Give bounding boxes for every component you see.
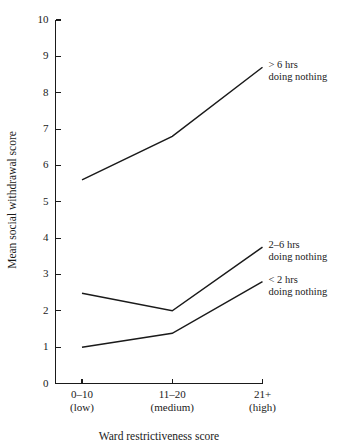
x-axis-title: Ward restrictiveness score (99, 430, 219, 442)
y-tick-label: 6 (43, 158, 49, 170)
y-tick-label: 0 (43, 377, 49, 389)
y-tick-label: 9 (43, 49, 49, 61)
series-line-1 (82, 247, 263, 311)
x-tick-sublabel: (high) (249, 401, 276, 414)
x-tick-label: 0–10 (71, 388, 94, 400)
annotation-1-line2: doing nothing (269, 251, 328, 262)
series-lines (82, 67, 263, 347)
y-tick-label: 5 (43, 195, 49, 207)
line-chart: 012345678910 0–10(low)11–20(medium)21+(h… (0, 0, 363, 448)
series-line-2 (82, 282, 263, 347)
y-tick-label: 3 (43, 267, 49, 279)
y-tick-label: 10 (38, 13, 50, 25)
annotation-1-line1: 2–6 hrs (269, 239, 300, 250)
x-tick-label: 11–20 (159, 388, 187, 400)
x-tick-sublabel: (medium) (151, 401, 195, 414)
y-tick-label: 8 (43, 86, 49, 98)
y-axis-title: Mean social withdrawal score (6, 131, 18, 269)
series-line-0 (82, 67, 263, 180)
y-tick-label: 1 (43, 340, 49, 352)
chart-container: 012345678910 0–10(low)11–20(medium)21+(h… (0, 0, 363, 448)
annotation-2-line2: doing nothing (269, 286, 328, 297)
x-tick-sublabel: (low) (70, 401, 94, 414)
y-tick-label: 7 (43, 122, 49, 134)
y-tick-label: 2 (43, 304, 49, 316)
y-axis-ticks: 012345678910 (38, 13, 61, 389)
x-tick-label: 21+ (254, 388, 271, 400)
series-annotations: > 6 hrsdoing nothing2–6 hrsdoing nothing… (269, 59, 328, 296)
annotation-2-line1: < 2 hrs (269, 274, 298, 285)
y-tick-label: 4 (43, 231, 49, 243)
annotation-0-line2: doing nothing (269, 71, 328, 82)
annotation-0-line1: > 6 hrs (269, 59, 298, 70)
